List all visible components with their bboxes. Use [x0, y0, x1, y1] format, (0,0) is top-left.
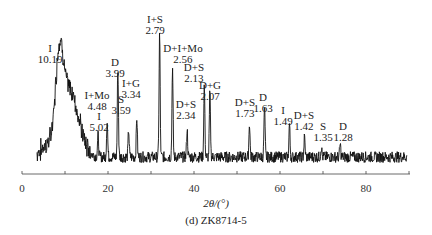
peak-label: D1.63	[253, 92, 272, 114]
peak-label: D3.99	[105, 57, 124, 79]
x-axis-label: 2θ/(°)	[203, 197, 229, 209]
peak-label: I5.02	[89, 111, 108, 133]
figure-caption: (d) ZK8714-5	[185, 214, 246, 226]
peak-label: I10.19	[38, 43, 63, 65]
peak-label: I+Mo4.48	[84, 90, 109, 112]
x-axis	[22, 171, 410, 174]
x-tick-label: 40	[189, 182, 200, 194]
x-tick-label: 80	[361, 182, 372, 194]
x-tick-label: 60	[275, 182, 286, 194]
peak-label: S1.35	[313, 121, 332, 143]
x-tick-label: 0	[19, 182, 25, 194]
peak-label: D+S1.42	[294, 110, 314, 132]
x-tick-label: 20	[103, 182, 114, 194]
peak-label: D+S1.73	[235, 97, 255, 119]
peak-label: I1.49	[273, 105, 292, 127]
peak-label: I+G3.34	[121, 78, 140, 100]
peak-label: D+S2.34	[176, 99, 196, 121]
peak-label: D+G2.07	[199, 80, 221, 102]
peak-label: I+S2.79	[145, 14, 164, 36]
peak-label: D1.28	[333, 121, 352, 143]
